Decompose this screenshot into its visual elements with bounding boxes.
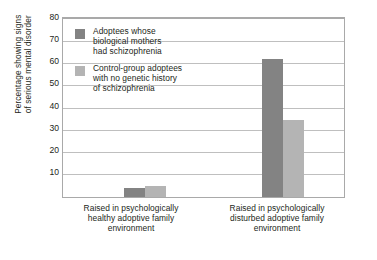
y-tick-70: 70 (35, 34, 59, 44)
bar-group1-series1 (283, 120, 304, 197)
legend-label-light-line-1: Control-group adoptees (93, 63, 182, 73)
legend: Adoptees whose biological mothers had sc… (75, 27, 255, 100)
y-axis-title-line-2: of serious mental disorder (23, 15, 33, 113)
bar-group0-series1 (145, 186, 166, 197)
x-axis-label-group0: Raised in psychologically healthy adopti… (56, 203, 206, 234)
legend-label-light-line-2: with no genetic history (93, 73, 177, 83)
legend-label-dark: Adoptees whose biological mothers had sc… (93, 27, 162, 57)
y-axis-title-line-1: Percentage showing signs (13, 15, 23, 114)
x-axis-label-group0-line-3: environment (108, 223, 155, 233)
x-axis-label-group0-line-2: healthy adoptive family (88, 213, 174, 223)
legend-item-control-group: Control-group adoptees with no genetic h… (75, 64, 255, 94)
x-axis-label-group0-line-1: Raised in psychologically (84, 203, 179, 213)
x-axis-label-group1-line-3: environment (254, 223, 301, 233)
x-axis-label-group1-line-2: disturbed adoptive family (230, 213, 324, 223)
legend-label-dark-line-2: biological mothers (93, 36, 161, 46)
legend-label-dark-line-3: had schizophrenia (93, 46, 162, 56)
x-axis-label-group1: Raised in psychologically disturbed adop… (199, 203, 355, 234)
x-axis-label-group1-line-1: Raised in psychologically (230, 203, 325, 213)
bar-group0-series0 (124, 188, 145, 197)
bar-chart-figure: Percentage showing signs of serious ment… (0, 0, 377, 260)
plot-area: Adoptees whose biological mothers had sc… (62, 17, 345, 198)
y-tick-10: 10 (35, 167, 59, 177)
y-tick-30: 30 (35, 123, 59, 133)
x-axis-labels: Raised in psychologically healthy adopti… (62, 203, 345, 248)
bar-group1-series0 (262, 59, 283, 197)
y-tick-50: 50 (35, 78, 59, 88)
y-axis-title: Percentage showing signs of serious ment… (13, 0, 33, 149)
legend-label-dark-line-1: Adoptees whose (93, 26, 156, 36)
y-tick-80: 80 (35, 12, 59, 22)
legend-item-adoptees-schizophrenia: Adoptees whose biological mothers had sc… (75, 27, 255, 57)
y-tick-60: 60 (35, 56, 59, 66)
legend-swatch-light (75, 66, 85, 76)
y-tick-40: 40 (35, 101, 59, 111)
y-tick-20: 20 (35, 145, 59, 155)
legend-label-light: Control-group adoptees with no genetic h… (93, 64, 182, 94)
legend-label-light-line-3: of schizophrenia (93, 83, 155, 93)
legend-swatch-dark (75, 29, 85, 39)
